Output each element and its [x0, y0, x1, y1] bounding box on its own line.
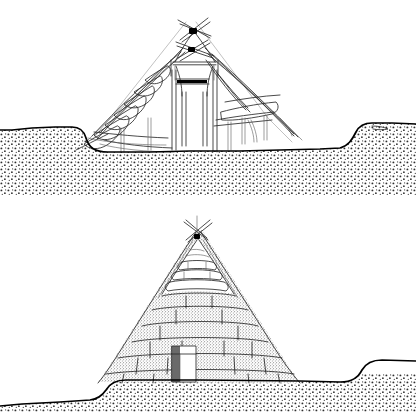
- crossed-poles-icon: [184, 216, 212, 242]
- caption-strip: [0, 404, 416, 412]
- earth-body-top: [0, 118, 416, 198]
- figure-root: [0, 0, 416, 412]
- apex-crossed-poles-covered: [184, 216, 212, 242]
- panel-timber-frame-stage: [0, 0, 416, 206]
- crossed-poles-icon: [178, 18, 211, 42]
- doorway[interactable]: [172, 346, 196, 382]
- panel-earth-covered-stage: [0, 206, 416, 412]
- right-rafter-poles: [206, 54, 302, 150]
- crossed-poles-icon-lower: [176, 40, 214, 61]
